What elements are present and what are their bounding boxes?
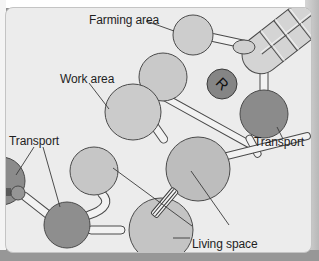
leader-work: [89, 83, 109, 109]
farming-hatch: [233, 40, 255, 54]
work-area-main: [105, 84, 161, 140]
transport-right: [240, 90, 288, 138]
leader-transport-left-edge: [16, 147, 34, 175]
transport-left-hatch: [11, 186, 25, 200]
label-transport-left: Transport: [9, 134, 59, 148]
living-upper-left: [70, 147, 118, 195]
farming-pod: [173, 15, 213, 55]
diagram-panel: R Farming area Work area Transport Trans…: [5, 7, 312, 253]
farming-module: [233, 8, 311, 81]
tube-hook: [89, 194, 106, 215]
leader-transport-left-center: [43, 147, 60, 207]
label-farming-area: Farming area: [89, 13, 159, 27]
tube-transport-to-living: [87, 226, 125, 234]
label-transport-right: Transport: [254, 135, 304, 149]
station-diagram: R: [6, 8, 311, 252]
label-living-space: Living space: [192, 237, 258, 251]
label-work-area: Work area: [60, 72, 114, 86]
transport-left-center: [44, 202, 90, 248]
